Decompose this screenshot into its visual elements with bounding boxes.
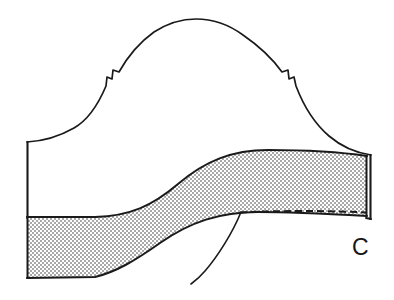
part-label-c: C <box>352 234 369 260</box>
arch-outline-group <box>27 19 371 155</box>
technical-diagram: C <box>0 0 394 300</box>
arch-outline-path <box>27 19 371 155</box>
right-edge-bottom-cap <box>366 218 371 219</box>
figure-canvas: C <box>0 0 394 300</box>
shaded-band-group <box>27 150 367 278</box>
